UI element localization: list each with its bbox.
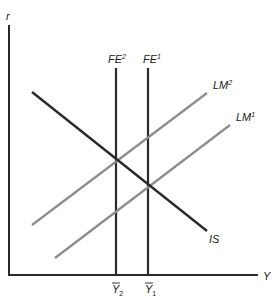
y1-tick-label: Y1 (145, 283, 156, 297)
fe1-label-sup: 1 (157, 53, 161, 60)
fe2-label-main: FE (108, 53, 123, 65)
x-axis-label: Y (263, 270, 271, 282)
y2-tick-sub: 2 (119, 290, 123, 297)
lm1-label-main: LM (236, 111, 252, 123)
lm2-label: LM2 (213, 79, 232, 91)
fe1-label-main: FE (143, 53, 158, 65)
y2-tick-label: Y2 (112, 283, 123, 297)
lm2-label-main: LM (213, 79, 229, 91)
fe2-label-sup: 2 (121, 53, 126, 60)
y-axis-label: r (6, 10, 11, 22)
is-lm-fe-diagram: r Y FE2 FE1 LM2 LM1 IS Y2 Y1 (0, 0, 278, 299)
y1-tick-sub: 1 (152, 290, 156, 297)
lm1-label: LM1 (236, 111, 255, 123)
is-label: IS (209, 233, 220, 245)
lm1-label-sup: 1 (251, 111, 255, 118)
fe1-label: FE1 (143, 53, 161, 65)
fe2-label: FE2 (108, 53, 126, 65)
lm1-curve (55, 125, 230, 258)
lm2-label-sup: 2 (227, 79, 232, 86)
